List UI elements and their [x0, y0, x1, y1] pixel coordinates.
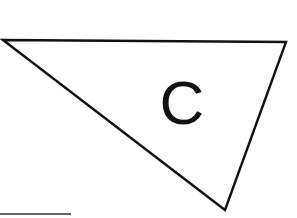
- diagram-canvas: C: [0, 0, 297, 218]
- triangle-label: C: [160, 68, 205, 137]
- triangle-shape: [3, 40, 286, 210]
- diagram-svg: C: [0, 0, 297, 218]
